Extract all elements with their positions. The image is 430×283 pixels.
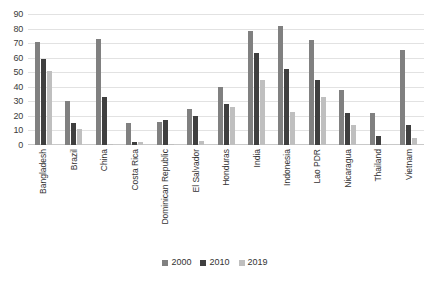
x-axis-label-cell: Brazil [58, 147, 88, 232]
bar [284, 69, 289, 145]
bar [290, 112, 295, 145]
bar [260, 80, 265, 146]
bar [370, 113, 375, 145]
bar [199, 141, 204, 145]
x-axis-tick-label: India [252, 149, 261, 167]
y-axis-tick-label: 60 [13, 53, 23, 62]
bar [345, 113, 350, 145]
bar [248, 31, 253, 145]
bar [376, 136, 381, 145]
bar [193, 116, 198, 145]
legend-label: 2000 [171, 258, 191, 267]
bar-group [394, 14, 424, 145]
bar-group [302, 14, 332, 145]
x-axis-label-cell: India [241, 147, 271, 232]
y-axis-tick-label: 50 [13, 68, 23, 77]
bar [132, 142, 137, 145]
x-axis-label-cell: Costa Rica [119, 147, 149, 232]
bar-group [333, 14, 363, 145]
x-axis-tick-label: El Salvador [191, 149, 200, 192]
x-axis-label-cell: Vietnam [394, 147, 424, 232]
bar-group [89, 14, 119, 145]
bar [47, 71, 52, 145]
bar [351, 125, 356, 145]
bar [218, 87, 223, 145]
bar [224, 104, 229, 145]
bar [254, 53, 259, 145]
bar-group [119, 14, 149, 145]
bar-group [180, 14, 210, 145]
legend-item[interactable]: 2019 [239, 258, 268, 267]
x-axis-label-cell: Thailand [363, 147, 393, 232]
bar [339, 90, 344, 145]
y-axis-tick-label: 10 [13, 126, 23, 135]
x-axis-tick-label: Indonesia [283, 149, 292, 186]
y-axis-tick-label: 20 [13, 111, 23, 120]
x-axis-label-cell: El Salvador [180, 147, 210, 232]
bar [400, 50, 405, 145]
bar-group [211, 14, 241, 145]
y-axis: 0102030405060708090 [0, 14, 26, 145]
bar-group [150, 14, 180, 145]
x-axis-tick-label: Bangladesh [39, 149, 48, 194]
x-axis-tick-label: Brazil [69, 149, 78, 170]
x-axis-label-cell: Nicaragua [333, 147, 363, 232]
bar [315, 80, 320, 146]
bar-group [58, 14, 88, 145]
bar-groups [28, 14, 424, 145]
bar [71, 123, 76, 145]
bar [126, 123, 131, 145]
x-axis-label-cell: Bangladesh [28, 147, 58, 232]
bar [41, 59, 46, 145]
bar [35, 42, 40, 145]
y-axis-tick-label: 40 [13, 82, 23, 91]
bar [163, 120, 168, 145]
x-axis-tick-label: Costa Rica [130, 149, 139, 191]
x-axis-tick-label: Nicaragua [344, 149, 353, 188]
bar [406, 125, 411, 145]
bar-group [363, 14, 393, 145]
bar-group [241, 14, 271, 145]
legend-swatch-icon [200, 260, 206, 266]
bar [102, 97, 107, 145]
bar [77, 129, 82, 145]
y-axis-tick-label: 30 [13, 97, 23, 106]
legend-item[interactable]: 2010 [200, 258, 229, 267]
legend-label: 2019 [248, 258, 268, 267]
x-axis-label-cell: China [89, 147, 119, 232]
bar [309, 40, 314, 145]
legend-item[interactable]: 2000 [162, 258, 191, 267]
bar [96, 39, 101, 145]
x-axis-tick-label: China [100, 149, 109, 171]
x-axis-labels: BangladeshBrazilChinaCosta RicaDominican… [28, 147, 424, 232]
bar [108, 144, 113, 145]
x-axis-tick-label: Lao PDR [313, 149, 322, 184]
bar [382, 144, 387, 145]
bar [278, 26, 283, 145]
bar [169, 144, 174, 145]
bar-group [272, 14, 302, 145]
x-axis-tick-label: Honduras [222, 149, 231, 186]
legend-label: 2010 [209, 258, 229, 267]
y-axis-tick-label: 90 [13, 10, 23, 19]
bar [65, 101, 70, 145]
bar-chart: 0102030405060708090 BangladeshBrazilChin… [0, 0, 430, 283]
x-axis-label-cell: Dominican Republic [150, 147, 180, 232]
y-axis-tick-label: 0 [18, 141, 23, 150]
bar [321, 97, 326, 145]
x-axis-tick-label: Thailand [374, 149, 383, 182]
x-axis-tick-label: Dominican Republic [161, 149, 170, 225]
x-axis-label-cell: Indonesia [272, 147, 302, 232]
bar [412, 138, 417, 145]
x-axis-label-cell: Honduras [211, 147, 241, 232]
legend-swatch-icon [239, 260, 245, 266]
bar-group [28, 14, 58, 145]
chart-legend: 200020102019 [0, 258, 430, 267]
y-axis-tick-label: 80 [13, 24, 23, 33]
bar [138, 142, 143, 145]
bar [187, 109, 192, 145]
x-axis-label-cell: Lao PDR [302, 147, 332, 232]
bar [157, 122, 162, 145]
legend-swatch-icon [162, 260, 168, 266]
y-axis-tick-label: 70 [13, 39, 23, 48]
